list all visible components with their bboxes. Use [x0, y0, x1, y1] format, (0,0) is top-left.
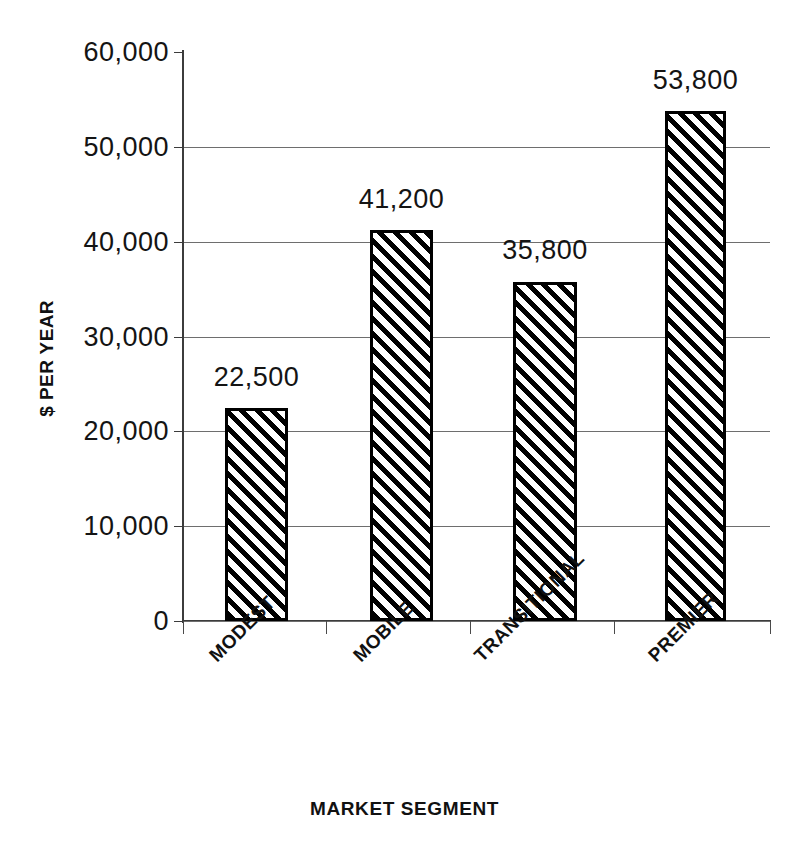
- y-axis-tick: [174, 242, 184, 243]
- x-axis-tick: [470, 621, 471, 634]
- y-axis-tick-label: 60,000: [83, 37, 169, 68]
- y-axis-tick: [174, 337, 184, 338]
- y-axis-tick-label: 10,000: [83, 511, 169, 542]
- x-axis-tick: [326, 621, 327, 634]
- bar-value-label: 41,200: [359, 184, 445, 215]
- bar-value-label: 22,500: [214, 362, 300, 393]
- y-axis-tick-label: 50,000: [83, 131, 169, 162]
- x-axis-tick: [770, 621, 771, 634]
- y-axis-tick-label: 30,000: [83, 321, 169, 352]
- y-axis-tick-label: 20,000: [83, 416, 169, 447]
- y-axis-tick: [174, 431, 184, 432]
- bar[interactable]: [665, 111, 726, 621]
- y-axis-tick-label: 40,000: [83, 226, 169, 257]
- bar-value-label: 53,800: [653, 65, 739, 96]
- y-axis-tick: [174, 526, 184, 527]
- y-axis-tick: [174, 52, 184, 53]
- bar[interactable]: [370, 230, 433, 621]
- bar-value-label: 35,800: [502, 235, 588, 266]
- y-axis-title: $ PER YEAR: [36, 300, 58, 417]
- bar[interactable]: [225, 408, 288, 621]
- plot-area: 010,00020,00030,00040,00050,00060,00022,…: [183, 52, 770, 621]
- x-axis-title: MARKET SEGMENT: [0, 798, 809, 820]
- y-axis-tick: [174, 147, 184, 148]
- x-axis-tick: [183, 621, 184, 634]
- bar-chart: 010,00020,00030,00040,00050,00060,00022,…: [0, 0, 809, 847]
- x-axis-tick: [614, 621, 615, 634]
- y-axis-tick-label: 0: [153, 606, 169, 637]
